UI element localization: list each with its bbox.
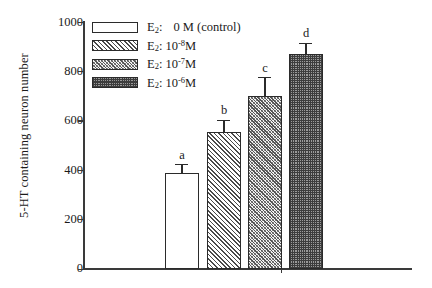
legend-prefix-e2-1e-7: E bbox=[147, 57, 155, 71]
error-bar-stem-e2-1e-8 bbox=[223, 120, 224, 133]
legend-unit-e2-1e-6: M bbox=[185, 75, 196, 89]
legend-label-control: E2:0 M (control) bbox=[147, 21, 241, 34]
legend-colon-e2-1e-6: : bbox=[159, 75, 162, 89]
legend-prefix-control: E bbox=[147, 20, 155, 34]
bar-e2-1e-6 bbox=[289, 54, 323, 269]
error-bar-cap-control bbox=[175, 164, 188, 165]
error-bar-stem-e2-1e-7 bbox=[264, 77, 265, 96]
bar-label-a: a bbox=[170, 148, 194, 163]
y-tick-label-600: 600 bbox=[39, 113, 83, 128]
legend-dose-e2-1e-6: 10 bbox=[166, 75, 179, 89]
legend-colon-control: : bbox=[159, 20, 162, 34]
legend-dose-e2-1e-7: 10 bbox=[166, 57, 179, 71]
legend-unit-e2-1e-8: M bbox=[185, 38, 196, 52]
y-tick-label-1000: 1000 bbox=[39, 15, 83, 30]
legend-swatch-e2-1e-6 bbox=[92, 77, 138, 88]
legend-item-e2-1e-7: E2: 10-7M bbox=[92, 55, 241, 74]
error-bar-cap-e2-1e-7 bbox=[258, 77, 271, 78]
bar-e2-1e-7 bbox=[248, 96, 282, 269]
y-tick-label-400: 400 bbox=[39, 163, 83, 178]
legend-item-e2-1e-6: E2: 10-6M bbox=[92, 74, 241, 93]
y-tick-label-200: 200 bbox=[39, 212, 83, 227]
legend-label-e2-1e-6: E2: 10-6M bbox=[147, 76, 196, 90]
y-tick-label-0: 0 bbox=[39, 261, 83, 276]
legend-prefix-e2-1e-8: E bbox=[147, 38, 155, 52]
bar-label-b: b bbox=[212, 103, 236, 118]
error-bar-cap-e2-1e-6 bbox=[299, 43, 312, 44]
legend-colon-e2-1e-7: : bbox=[159, 57, 162, 71]
legend-item-control: E2:0 M (control) bbox=[92, 18, 241, 37]
bar-label-c: c bbox=[253, 61, 277, 76]
legend-dose-e2-1e-8: 10 bbox=[166, 38, 179, 52]
bar-e2-1e-8 bbox=[207, 132, 241, 269]
legend-colon-e2-1e-8: : bbox=[159, 38, 162, 52]
error-bar-cap-e2-1e-8 bbox=[217, 120, 230, 121]
bar-chart: 5-HT containing neuron number 1000 800 6… bbox=[0, 0, 432, 288]
legend-unit-e2-1e-7: M bbox=[185, 57, 196, 71]
legend-swatch-control bbox=[92, 22, 138, 33]
y-axis-line bbox=[83, 21, 85, 269]
legend-prefix-e2-1e-6: E bbox=[147, 75, 155, 89]
error-bar-stem-control bbox=[181, 164, 182, 173]
legend-label-e2-1e-7: E2: 10-7M bbox=[147, 57, 196, 71]
bar-label-d: d bbox=[294, 26, 318, 41]
legend-dose-control: 0 M (control) bbox=[173, 20, 240, 34]
x-axis-minor-tick bbox=[281, 269, 282, 273]
y-axis-ticks: 1000 800 600 400 200 0 bbox=[0, 0, 83, 288]
error-bar-stem-e2-1e-6 bbox=[305, 43, 306, 54]
legend: E2:0 M (control) E2: 10-8M E2: 10-7M E2:… bbox=[92, 18, 241, 92]
bar-control bbox=[165, 173, 199, 269]
legend-item-e2-1e-8: E2: 10-8M bbox=[92, 37, 241, 56]
legend-label-e2-1e-8: E2: 10-8M bbox=[147, 39, 196, 53]
y-tick-label-800: 800 bbox=[39, 64, 83, 79]
legend-swatch-e2-1e-8 bbox=[92, 40, 138, 51]
legend-swatch-e2-1e-7 bbox=[92, 59, 138, 70]
